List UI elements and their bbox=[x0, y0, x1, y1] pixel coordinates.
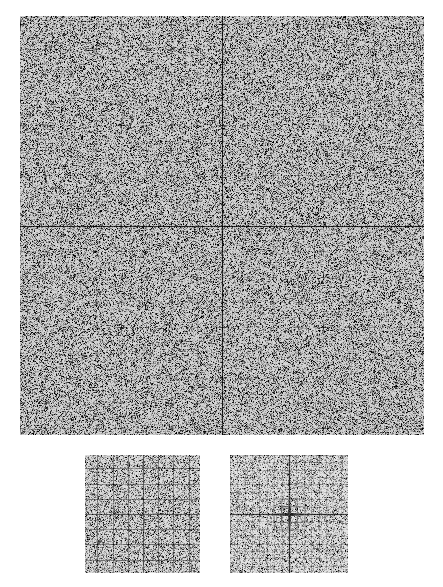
main-spectrum-panel bbox=[20, 16, 424, 435]
figure-root: Grayscale magnitude field rendered as de… bbox=[0, 0, 443, 587]
detail-left-panel bbox=[85, 455, 200, 573]
detail-right-panel bbox=[230, 455, 348, 573]
detail-right-canvas bbox=[230, 455, 348, 573]
detail-left-canvas bbox=[85, 455, 200, 573]
main-spectrum-canvas bbox=[20, 16, 424, 435]
